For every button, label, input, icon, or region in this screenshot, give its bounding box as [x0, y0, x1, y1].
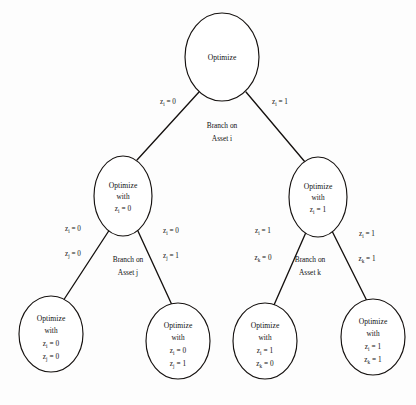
node-leaf-zi0-zj0-line1: Optimize — [37, 314, 66, 323]
edge-left-to-leaf1 — [63, 229, 110, 301]
edge-left-to-leaf2 — [137, 229, 172, 305]
node-left-zi0-line2: with — [116, 192, 129, 201]
branch-annotation-asset-i-line1: Branch on — [207, 121, 238, 130]
branch-annotation-asset-k-line1: Branch on — [295, 255, 326, 264]
branch-annotation-asset-j-line2: Asset j — [118, 268, 138, 277]
edge-label-left-left-zi: zi = 0 — [65, 225, 81, 234]
node-leaf-zi0-zj0-line2: with — [44, 326, 57, 335]
node-leaf-zi1-zk1-line1: Optimize — [359, 317, 388, 326]
node-right-zi1-line2: with — [311, 193, 324, 202]
edge-label-right-right-zi: zi = 1 — [359, 230, 375, 239]
node-leaf-zi1-zk1[interactable]: Optimize with zi = 1 zk = 1 — [341, 299, 405, 375]
branch-annotation-asset-k-line2: Asset k — [299, 268, 321, 277]
edge-label-right-left-zk: zk = 0 — [254, 254, 271, 263]
node-leaf-zi1-zk1-line4: zk = 1 — [364, 355, 382, 365]
node-root[interactable]: Optimize — [185, 13, 259, 101]
node-left-zi0-line1: Optimize — [109, 181, 138, 190]
node-leaf-zi1-zk0-line3: zi = 1 — [257, 346, 274, 356]
edge-label-left-right-zi: zi = 0 — [163, 227, 179, 236]
node-group: Optimize Optimize with zi = 0 Optimize w… — [19, 13, 405, 379]
node-leaf-zi0-zj0-line4: zj = 0 — [43, 352, 60, 362]
node-leaf-zi1-zk0-line4: zk = 0 — [256, 359, 274, 369]
edge-right-to-leaf4 — [331, 229, 367, 301]
node-leaf-zi1-zk1-line3: zi = 1 — [365, 342, 382, 352]
branch-annotation-asset-j: Branch on Asset j — [113, 255, 144, 277]
edge-label-root-right: zi = 1 — [272, 98, 288, 107]
node-leaf-zi0-zj0-line3: zi = 0 — [43, 339, 60, 349]
node-leaf-zi1-zk0-line2: with — [258, 333, 271, 342]
branch-annotation-asset-i: Branch on Asset i — [207, 121, 238, 143]
node-leaf-zi0-zj1[interactable]: Optimize with zi = 0 zj = 1 — [146, 303, 210, 379]
tree-canvas: Optimize Optimize with zi = 0 Optimize w… — [0, 0, 416, 405]
edge-label-right-right-zk: zk = 1 — [358, 255, 375, 264]
node-root-label: Optimize — [208, 53, 237, 62]
node-leaf-zi1-zk1-line2: with — [366, 329, 379, 338]
node-leaf-zi0-zj1-line3: zi = 0 — [170, 346, 187, 356]
node-right-zi1[interactable]: Optimize with zi = 1 — [289, 157, 347, 237]
branch-and-bound-tree-diagram: Optimize Optimize with zi = 0 Optimize w… — [0, 0, 416, 405]
node-leaf-zi0-zj1-line1: Optimize — [164, 321, 193, 330]
node-leaf-zi0-zj1-line4: zj = 1 — [170, 359, 187, 369]
branch-annotation-asset-j-line1: Branch on — [113, 255, 144, 264]
branch-annotation-asset-i-line2: Asset i — [212, 134, 232, 143]
edge-label-left-right-zj: zj = 1 — [163, 252, 179, 261]
edge-label-right-left-zi: zi = 1 — [255, 227, 271, 236]
node-right-zi1-line1: Optimize — [304, 182, 333, 191]
edge-label-root-left: zi = 0 — [160, 98, 176, 107]
node-left-zi0-line3: zi = 0 — [115, 204, 132, 214]
edge-label-left-left-zj: zj = 0 — [65, 250, 81, 259]
node-leaf-zi1-zk0[interactable]: Optimize with zi = 1 zk = 0 — [233, 303, 297, 379]
node-left-zi0[interactable]: Optimize with zi = 0 — [94, 156, 152, 236]
node-leaf-zi0-zj1-line2: with — [171, 333, 184, 342]
node-leaf-zi0-zj0[interactable]: Optimize with zi = 0 zj = 0 — [19, 296, 83, 372]
branch-annotation-asset-k: Branch on Asset k — [295, 255, 326, 277]
node-right-zi1-line3: zi = 1 — [310, 205, 327, 215]
node-leaf-zi1-zk0-line1: Optimize — [251, 321, 280, 330]
